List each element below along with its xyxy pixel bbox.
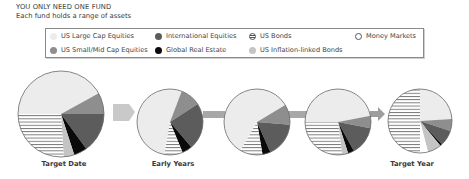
pie-slice	[388, 89, 420, 153]
pie-label-early-years: Early Years	[152, 160, 195, 168]
arrow-shape-icon	[113, 104, 135, 121]
pie-charts	[0, 0, 469, 179]
pie-label-target-date: Target Date	[42, 160, 87, 168]
pie-label-target-year: Target Year	[390, 160, 434, 168]
pie-slice	[18, 114, 64, 157]
pie-chart	[305, 89, 371, 155]
pie-slice	[305, 89, 370, 122]
pie-chart	[388, 89, 452, 153]
pie-slice	[305, 122, 342, 155]
pie-slice	[420, 89, 452, 121]
pie-chart	[224, 89, 290, 155]
pie-chart	[18, 71, 104, 157]
arrow-right-icon	[370, 107, 385, 121]
pie-chart	[137, 89, 203, 155]
